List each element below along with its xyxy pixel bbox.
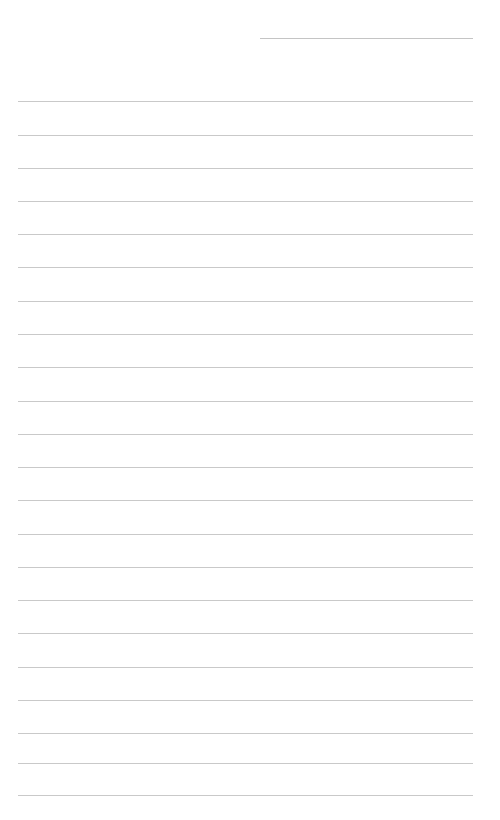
rule-line [18, 700, 473, 701]
lined-paper-page [0, 0, 500, 820]
rule-line [18, 763, 473, 764]
header-rule-line [260, 38, 473, 39]
rule-line [18, 434, 473, 435]
rule-line [18, 534, 473, 535]
rule-line [18, 135, 473, 136]
rule-line [18, 201, 473, 202]
rule-line [18, 401, 473, 402]
rule-line [18, 168, 473, 169]
rule-line [18, 101, 473, 102]
rule-line [18, 467, 473, 468]
rule-line [18, 633, 473, 634]
rule-line [18, 600, 473, 601]
rule-line [18, 667, 473, 668]
rule-line [18, 795, 473, 796]
ruling-area [0, 0, 500, 820]
rule-line [18, 500, 473, 501]
rule-line [18, 334, 473, 335]
rule-line [18, 567, 473, 568]
rule-line [18, 301, 473, 302]
rule-line [18, 267, 473, 268]
rule-line [18, 733, 473, 734]
rule-line [18, 234, 473, 235]
rule-line [18, 367, 473, 368]
